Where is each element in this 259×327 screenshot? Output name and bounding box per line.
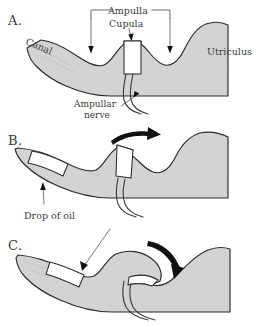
ampulla-arrow-left-head [88,46,94,54]
cupula-b [116,145,133,178]
cupula-leader [128,28,133,41]
panel-c: C. [8,229,230,320]
panel-letter-a: A. [7,13,22,28]
label-ampullar-nerve-line2: nerve [84,110,110,120]
anatomical-figure: A. Ampulla Cupula Utriculus Canal Ampull… [0,0,259,327]
cupula-arrow-head [128,33,133,41]
cupula-a [124,41,141,74]
panel-b: B. Drop of oil [8,127,228,221]
panel-letter-c: C. [8,238,22,253]
ampulla-arrow-right-head [167,46,173,54]
label-drop-of-oil: Drop of oil [24,210,75,221]
figure-root: A. Ampulla Cupula Utriculus Canal Ampull… [0,0,259,327]
label-utriculus: Utriculus [207,46,252,57]
rotation-arrow-b[interactable] [111,127,161,145]
panel-letter-b: B. [8,133,23,148]
canal-ampulla-utriculus-body-c [16,248,230,312]
oil-leader [40,182,46,204]
label-ampullar-nerve-line1: Ampullar [73,99,117,109]
panel-a: A. Ampulla Cupula Utriculus Canal Ampull… [7,5,252,120]
label-cupula: Cupula [109,18,144,29]
label-ampulla: Ampulla [107,5,148,16]
rotation-arrow-b-head [147,127,161,140]
oil-arrow-head [40,182,46,190]
